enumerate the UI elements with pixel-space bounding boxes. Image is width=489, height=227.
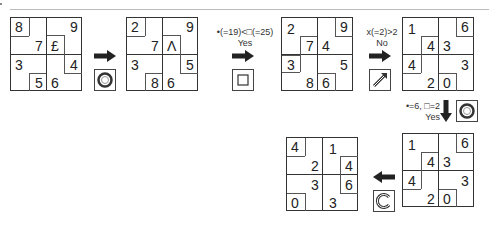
down-arrow-icon	[440, 100, 452, 122]
cell-number: 4	[427, 155, 435, 169]
cell-number: 3	[461, 58, 469, 72]
cell-number: 5	[186, 58, 194, 72]
cell-number: 2	[287, 22, 295, 36]
grid-4: 1 6 4 3 4 3 2 0	[402, 17, 474, 91]
grid-1: 8 9 7 £ 3 4 5 6	[10, 17, 82, 91]
cell-number: 1	[329, 142, 337, 156]
cell-number: 8	[151, 76, 159, 90]
cell-number: 4	[70, 58, 78, 72]
cell-number: 3	[443, 155, 451, 169]
cell-number: 9	[70, 20, 78, 34]
cell-number: 0	[443, 76, 451, 90]
cell-number: 3	[329, 196, 337, 210]
cell-number: 6	[345, 178, 353, 192]
cell-number: 4	[408, 174, 416, 188]
condition-label: •=6, □=2 Yes	[390, 101, 440, 123]
cell-number: 3	[15, 58, 23, 72]
right-arrow-icon	[94, 50, 116, 62]
cell-number: Λ	[167, 39, 176, 53]
cell-number: 5	[340, 58, 348, 72]
rotate-c-icon	[373, 190, 395, 212]
top-divider	[10, 9, 489, 10]
cell-number: 5	[35, 76, 43, 90]
rotate-circle-icon	[456, 100, 478, 122]
condition-label: •(=19)<□(=25) Yes	[204, 27, 286, 49]
left-arrow-icon	[373, 171, 395, 183]
rotate-circle-icon	[94, 69, 116, 91]
grid-5: 1 6 4 3 4 3 2 0	[402, 133, 474, 207]
grid-2: 2 9 7 Λ 3 5 8 6	[126, 17, 198, 91]
cell-number: 6	[461, 136, 469, 150]
cell-number: 7	[306, 39, 314, 53]
cell-number: 2	[427, 76, 435, 90]
cell-number: 1	[408, 138, 416, 152]
diagonal-arrow-icon	[369, 69, 391, 91]
cell-number: 4	[408, 58, 416, 72]
cell-number: 4	[427, 39, 435, 53]
grid-3: 2 9 7 4 3 5 8 6	[281, 17, 353, 91]
cell-number: 6	[51, 76, 59, 90]
cell-number: 3	[311, 178, 319, 192]
cell-number: 0	[291, 196, 299, 210]
cell-number: 7	[35, 39, 43, 53]
cell-number: 6	[461, 20, 469, 34]
cell-number: 9	[186, 20, 194, 34]
cell-number: 3	[287, 58, 295, 72]
cell-number: 9	[340, 20, 348, 34]
cell-number: 2	[311, 159, 319, 173]
cell-number: 4	[322, 39, 330, 53]
cell-number: 6	[322, 76, 330, 90]
cell-number: 2	[131, 20, 139, 34]
cell-number: 6	[167, 76, 175, 90]
cell-number: £	[51, 39, 59, 53]
right-arrow-icon	[369, 50, 391, 62]
grid-divider	[11, 54, 81, 55]
cell-number: 1	[408, 22, 416, 36]
condition-label: x(=2)>2 No	[362, 27, 402, 49]
cell-number: 0	[443, 192, 451, 206]
cell-number: 2	[427, 192, 435, 206]
corner-dot	[0, 3, 2, 5]
cell-number: 8	[15, 20, 23, 34]
right-arrow-icon	[232, 50, 254, 62]
cell-number: 8	[306, 76, 314, 90]
cell-number: 7	[151, 39, 159, 53]
cell-number: 3	[461, 174, 469, 188]
grid-6: 4 1 2 4 3 6 0 3	[286, 137, 358, 211]
cell-number: 4	[291, 140, 299, 154]
cell-number: 3	[131, 58, 139, 72]
cell-number: 3	[443, 39, 451, 53]
square-icon	[232, 69, 254, 91]
cell-number: 4	[345, 159, 353, 173]
